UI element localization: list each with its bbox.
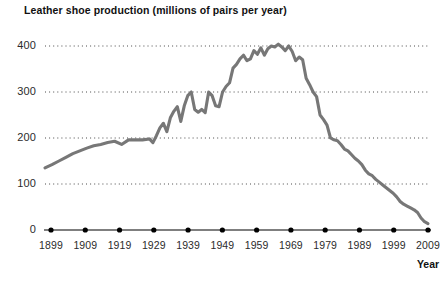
- y-axis-tick-label: 200: [2, 131, 36, 143]
- y-axis-tick-label: 0: [2, 223, 36, 235]
- chart-container: Leather shoe production (millions of pai…: [0, 0, 448, 291]
- y-axis-tick-label: 100: [2, 177, 36, 189]
- gridlines-group: [45, 46, 428, 184]
- y-axis-tick-label: 400: [2, 39, 36, 51]
- x-axis-tick-label: 2009: [408, 239, 448, 251]
- y-axis-tick-label: 300: [2, 85, 36, 97]
- x-axis-title: Year: [408, 258, 448, 270]
- data-series-line: [45, 44, 428, 223]
